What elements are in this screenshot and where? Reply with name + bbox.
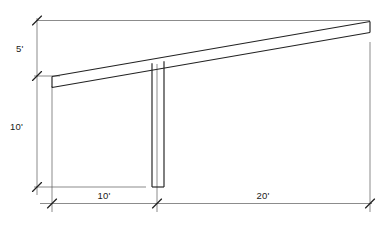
drawing-canvas bbox=[0, 0, 388, 227]
dimension-label-column-height: 10' bbox=[10, 121, 23, 132]
dimension-label-left-span: 10' bbox=[98, 190, 111, 201]
structural-elevation-drawing: 5' 10' 10' 20' bbox=[0, 0, 388, 227]
dimension-label-rise: 5' bbox=[16, 43, 24, 54]
dimension-label-right-span: 20' bbox=[257, 190, 270, 201]
